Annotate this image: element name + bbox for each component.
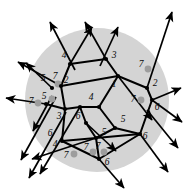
region-label: 5 (121, 114, 126, 124)
graph-vertex (63, 107, 67, 111)
graph-vertex (150, 98, 154, 102)
region-label: 4 (89, 92, 94, 102)
graph-vertex (138, 132, 142, 136)
graph-vertex (97, 105, 101, 109)
region-label: 5 (102, 127, 107, 137)
graph-vertex (94, 136, 98, 140)
marked-dot (138, 97, 145, 104)
region-label: 6 (76, 111, 81, 121)
region-label: 2 (153, 78, 158, 88)
region-label: 5 (41, 73, 46, 83)
graph-vertex (113, 126, 117, 130)
region-label: 4 (62, 50, 67, 60)
graph-vertex (78, 105, 82, 109)
graph-vertex (116, 74, 120, 78)
region-label: 4 (53, 139, 58, 149)
region-label: 3 (111, 50, 117, 60)
marked-dot (49, 96, 56, 103)
graph-diagram: 437572127547636565477676 (0, 0, 188, 195)
region-label: 1 (112, 79, 117, 89)
marked-dot (101, 149, 108, 156)
region-label: 6 (48, 128, 53, 138)
figure-root: 437572127547636565477676 (0, 0, 188, 195)
graph-vertex (44, 102, 48, 106)
region-label: 6 (143, 131, 148, 141)
graph-vertex (59, 84, 63, 88)
region-label: 6 (155, 102, 160, 112)
graph-vertex (50, 86, 54, 90)
graph-vertex (68, 62, 72, 66)
graph-vertex (145, 86, 149, 90)
region-label: 3 (56, 111, 62, 121)
region-label: 6 (105, 157, 110, 167)
graph-vertex (84, 121, 88, 125)
marked-dot (35, 100, 42, 107)
region-label: 5 (42, 91, 47, 101)
graph-vertex (104, 57, 108, 61)
marked-dot (71, 151, 78, 158)
marked-dot (145, 66, 152, 73)
graph-vertex (97, 157, 101, 161)
graph-vertex (60, 139, 64, 143)
region-label: 2 (64, 75, 69, 85)
